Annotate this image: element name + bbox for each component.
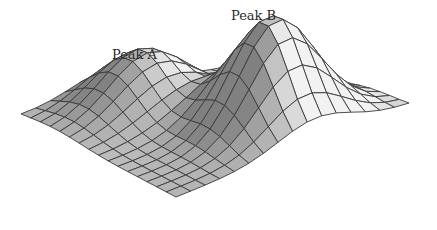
peak-b-label: Peak B: [231, 9, 276, 22]
surface-plot: [0, 0, 437, 230]
peak-a-label: Peak A: [112, 48, 157, 61]
surface-mesh: [21, 16, 409, 197]
